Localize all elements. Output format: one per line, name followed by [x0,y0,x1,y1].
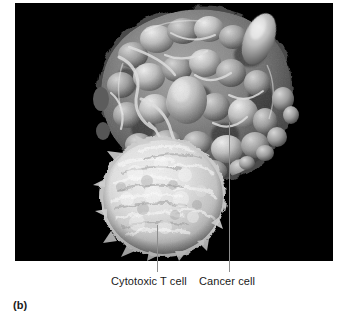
micrograph-image [15,3,333,261]
panel-label-b: (b) [13,299,27,311]
leader-line-cancer-cell [229,122,230,272]
figure-panel-b: Cytotoxic T cell Cancer cell (b) [0,0,343,323]
electron-micrograph-photo [15,3,333,261]
label-cytotoxic-t-cell: Cytotoxic T cell [111,275,187,288]
leader-line-cytotoxic-t-cell [157,225,158,272]
label-cancer-cell: Cancer cell [199,275,255,288]
